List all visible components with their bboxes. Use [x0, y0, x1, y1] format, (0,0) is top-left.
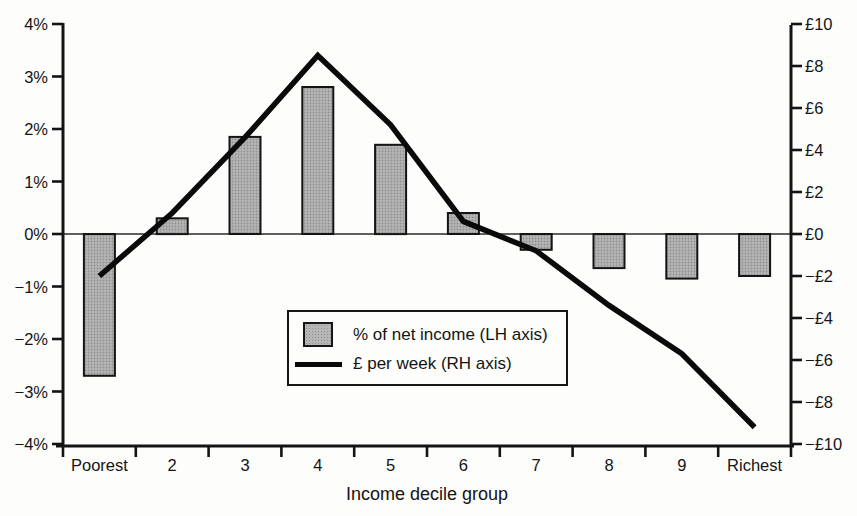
bar-5 [375, 145, 406, 234]
left-axis-tick-label: −4% [15, 435, 49, 453]
left-axis-tick-label: −1% [15, 278, 49, 296]
right-axis-tick-label: £8 [805, 57, 823, 75]
right-axis-tick-label: £10 [805, 15, 833, 33]
x-category-label: Richest [727, 456, 782, 474]
x-category-label: 9 [677, 456, 686, 474]
x-category-label: 7 [532, 456, 541, 474]
legend-label-line: £ per week (RH axis) [353, 354, 512, 374]
bar-4 [302, 87, 333, 234]
legend-label-bars: % of net income (LH axis) [353, 325, 548, 345]
x-category-label: 8 [604, 456, 613, 474]
right-axis-tick-label: −£4 [805, 309, 833, 327]
x-category-label: 2 [168, 456, 177, 474]
bar-poorest [84, 234, 115, 376]
left-axis-tick-label: 0% [24, 225, 48, 243]
x-category-label: 4 [313, 456, 322, 474]
legend-item-line: £ per week (RH axis) [289, 354, 566, 374]
right-axis-tick-label: −£6 [805, 351, 833, 369]
left-axis-tick-label: 2% [24, 120, 48, 138]
right-axis-tick-label: £4 [805, 141, 823, 159]
left-axis-tick-label: 4% [24, 15, 48, 33]
x-category-label: Poorest [71, 456, 128, 474]
right-axis-tick-label: £2 [805, 183, 823, 201]
x-category-label: 6 [459, 456, 468, 474]
bar-8 [594, 234, 625, 268]
chart-canvas: 4%3%2%1%0%−1%−2%−3%−4%£10£8£6£4£2£0−£2−£… [0, 0, 857, 516]
right-axis-tick-label: £0 [805, 225, 823, 243]
bar-richest [739, 234, 770, 276]
line-legend-swatch [295, 362, 342, 367]
x-axis-title: Income decile group [346, 484, 508, 505]
x-category-label: 5 [386, 456, 395, 474]
income-decile-impact-chart: 4%3%2%1%0%−1%−2%−3%−4%£10£8£6£4£2£0−£2−£… [0, 0, 857, 516]
right-axis-tick-label: £6 [805, 99, 823, 117]
right-axis-tick-label: −£8 [805, 393, 833, 411]
bar-legend-swatch [303, 322, 333, 347]
bar-9 [666, 234, 697, 279]
legend-item-bars: % of net income (LH axis) [289, 322, 566, 347]
left-axis-tick-label: −2% [15, 330, 49, 348]
left-axis-tick-label: 1% [24, 173, 48, 191]
left-axis-tick-label: 3% [24, 68, 48, 86]
right-axis-tick-label: −£10 [805, 435, 842, 453]
legend: % of net income (LH axis) £ per week (RH… [287, 310, 568, 386]
left-axis-tick-label: −3% [15, 383, 49, 401]
right-axis-tick-label: −£2 [805, 267, 833, 285]
x-category-label: 3 [240, 456, 249, 474]
